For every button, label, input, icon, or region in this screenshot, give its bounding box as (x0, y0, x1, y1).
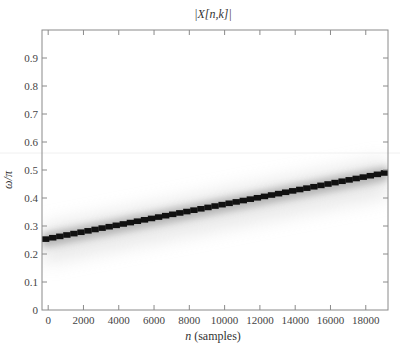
x-axis-label: n (samples) (185, 329, 241, 343)
y-tick-label: 0.5 (24, 164, 38, 176)
x-tick-label: 16000 (317, 314, 345, 326)
y-tick-label: 0.3 (24, 220, 38, 232)
x-tick-label: 0 (45, 314, 51, 326)
x-tick-label: 14000 (281, 314, 309, 326)
y-tick-label: 0.1 (24, 276, 38, 288)
y-tick-label: 0.9 (24, 52, 38, 64)
y-tick-label: 0.2 (24, 248, 38, 260)
y-tick-label: 0 (33, 304, 39, 316)
x-tick-label: 12000 (246, 314, 274, 326)
x-tick-label: 10000 (211, 314, 239, 326)
x-tick-label: 4000 (108, 314, 131, 326)
y-tick-label: 0.7 (24, 108, 38, 120)
x-tick-label: 8000 (178, 314, 201, 326)
spectrogram-chart: |X[n,k]| 0200040006000800010000120001400… (0, 0, 400, 347)
y-tick-label: 0.4 (24, 192, 38, 204)
y-tick-label: 0.8 (24, 80, 38, 92)
y-axis-label: ω/π (1, 170, 15, 189)
y-tick-label: 0.6 (24, 136, 38, 148)
x-tick-label: 18000 (352, 314, 380, 326)
x-tick-label: 6000 (143, 314, 166, 326)
x-tick-label: 2000 (72, 314, 95, 326)
chart-title: |X[n,k]| (194, 7, 232, 21)
